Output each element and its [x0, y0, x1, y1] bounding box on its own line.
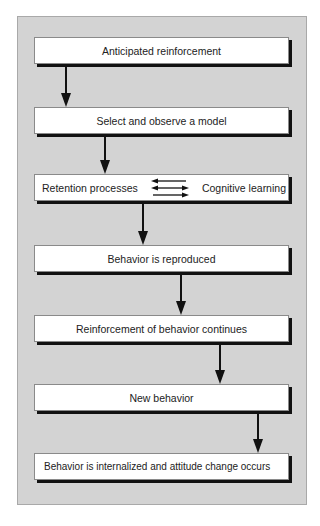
step-behavior-internalized: Behavior is internalized and attitude ch… [34, 453, 289, 480]
step-behavior-reproduced: Behavior is reproduced [34, 245, 289, 272]
arrow-double-icon [151, 185, 189, 190]
step-label: Reinforcement of behavior continues [76, 323, 247, 335]
step-label: Select and observe a model [96, 115, 226, 127]
arrow-left-icon [151, 178, 186, 183]
step-new-behavior: New behavior [34, 384, 289, 411]
bidirectional-arrows-icon [150, 177, 190, 199]
retention-processes-label: Retention processes [42, 182, 138, 194]
step-anticipated-reinforcement: Anticipated reinforcement [34, 37, 289, 64]
step-retention-cognitive: Retention processes Cognitive learning [34, 174, 289, 201]
step-label: Anticipated reinforcement [102, 45, 221, 57]
step-label: Behavior is internalized and attitude ch… [44, 461, 270, 472]
arrow-right-icon [153, 192, 189, 197]
step-reinforcement-continues: Reinforcement of behavior continues [34, 315, 289, 342]
step-select-observe-model: Select and observe a model [34, 107, 289, 134]
cognitive-learning-label: Cognitive learning [202, 182, 286, 194]
step-label: New behavior [129, 392, 193, 404]
step-label: Behavior is reproduced [108, 253, 216, 265]
